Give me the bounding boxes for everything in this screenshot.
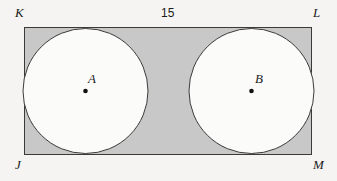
center-dot-b: [249, 89, 254, 94]
center-dot-a: [83, 89, 88, 94]
dimension-label-top-width: 15: [161, 7, 174, 19]
vertex-label-k: K: [15, 6, 24, 19]
circle-center-label-b: B: [255, 72, 263, 85]
circle-center-label-a: A: [88, 72, 96, 85]
vertex-label-m: M: [313, 158, 324, 171]
vertex-label-j: J: [15, 158, 21, 171]
vertex-label-l: L: [313, 6, 320, 19]
geometry-diagram: [0, 0, 337, 181]
figure-canvas: K L J M A B 15: [0, 0, 337, 181]
